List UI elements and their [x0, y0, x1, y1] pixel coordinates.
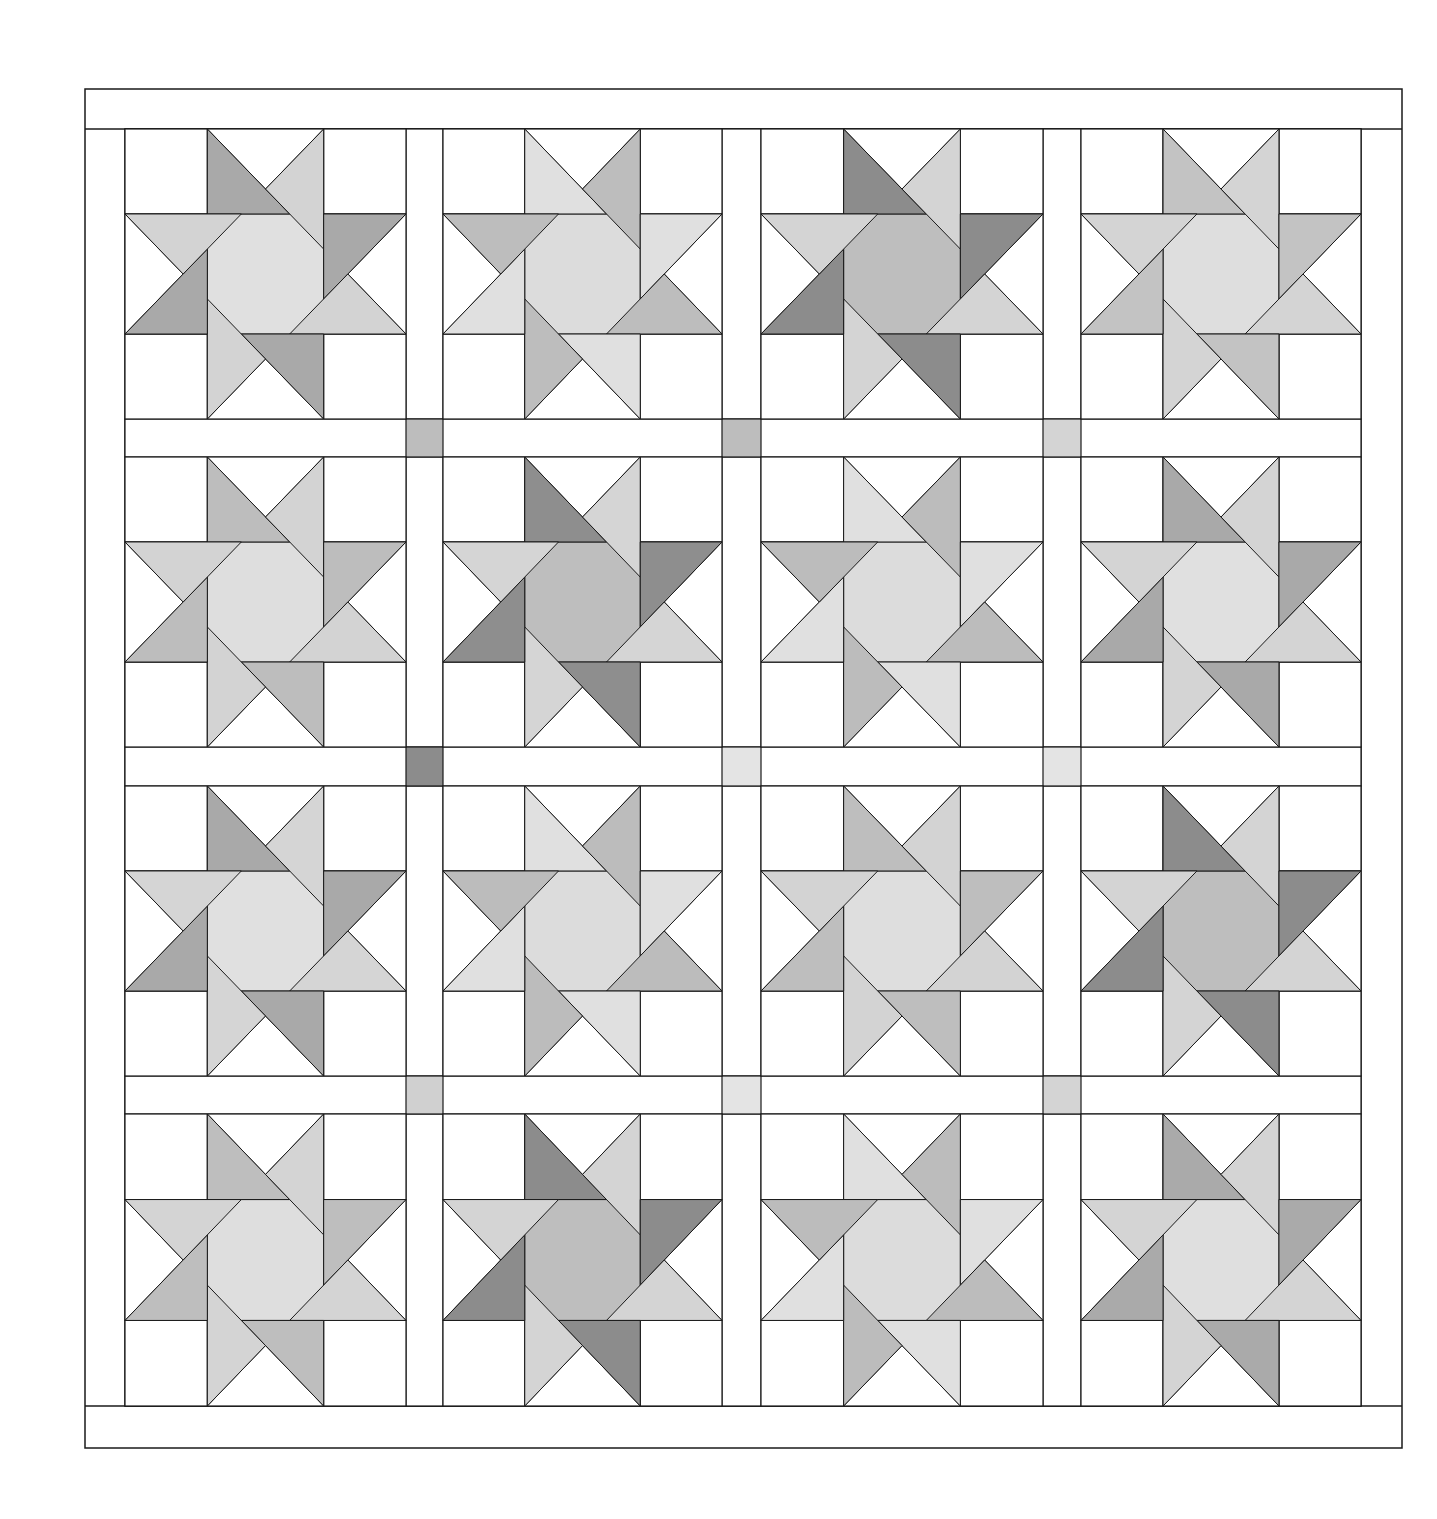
- star-block: [761, 786, 1043, 1076]
- block-center-top: [525, 542, 641, 662]
- block-center-top: [1163, 871, 1279, 991]
- block-center-top: [1163, 214, 1279, 334]
- block-center-top: [844, 1200, 961, 1321]
- block-center-top: [207, 542, 323, 662]
- block-center-top: [1163, 1200, 1279, 1321]
- block-center-top: [207, 214, 323, 334]
- star-block: [1081, 129, 1361, 419]
- block-center-top: [844, 542, 961, 662]
- block-center-top: [525, 1200, 641, 1321]
- cornerstone: [1043, 1076, 1081, 1114]
- quilt-diagram: [0, 0, 1437, 1519]
- block-center-top: [207, 871, 323, 991]
- block-center-top: [844, 214, 961, 334]
- cornerstone: [1043, 747, 1081, 786]
- block-center-top: [525, 214, 641, 334]
- block-center-top: [207, 1200, 323, 1321]
- cornerstone: [406, 419, 443, 457]
- block-center-top: [844, 871, 961, 991]
- block-center-top: [525, 871, 641, 991]
- star-block: [443, 786, 722, 1076]
- star-block: [1081, 786, 1361, 1076]
- cornerstone: [722, 1076, 761, 1114]
- star-block: [125, 786, 406, 1076]
- cornerstone: [1043, 419, 1081, 457]
- star-block: [125, 1114, 406, 1406]
- block-center-top: [1163, 542, 1279, 662]
- star-block: [125, 457, 406, 747]
- cornerstone: [406, 747, 443, 786]
- star-block: [761, 457, 1043, 747]
- star-block: [443, 457, 722, 747]
- star-block: [761, 1114, 1043, 1406]
- star-block: [443, 129, 722, 419]
- cornerstone: [722, 419, 761, 457]
- star-block: [1081, 457, 1361, 747]
- star-block: [761, 129, 1043, 419]
- star-block: [443, 1114, 722, 1406]
- star-block: [1081, 1114, 1361, 1406]
- cornerstone: [722, 747, 761, 786]
- cornerstone: [406, 1076, 443, 1114]
- star-block: [125, 129, 406, 419]
